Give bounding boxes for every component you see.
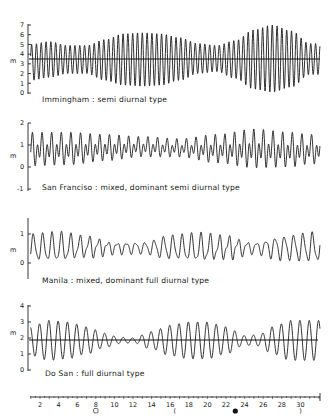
x-tick-label: 20 — [203, 401, 211, 409]
panel-do-san: 01234 m Do San : full diurnal type — [10, 302, 320, 378]
x-tick-label: 12 — [129, 401, 137, 409]
x-tick-label: 28 — [278, 401, 286, 409]
tide-curve — [31, 129, 320, 168]
first-quarter-moon-icon — [94, 409, 98, 413]
tide-types-figure: 01234567 m Immingham : semi diurnal type… — [0, 0, 334, 418]
y-tick-label: 6 — [20, 31, 24, 39]
y-tick-label: 3 — [20, 318, 24, 326]
x-tick-label: 10 — [110, 401, 118, 409]
x-tick-label: 18 — [185, 401, 193, 409]
y-tick-label: 3 — [20, 60, 24, 68]
x-minor-ticks — [31, 396, 319, 399]
y-tick-label: 1 — [20, 350, 24, 358]
x-tick-labels: 24681012141618202224262830 — [38, 401, 305, 409]
x-tick-label: 4 — [57, 401, 61, 409]
x-tick-label: 2 — [38, 401, 42, 409]
y-ticks: 01234 — [20, 302, 31, 374]
moon-phase-symbols: () — [94, 407, 302, 415]
crescent-moon-icon: ( — [174, 407, 177, 415]
y-ticks: -1012 — [17, 119, 31, 193]
last-quarter-moon-icon: ) — [299, 407, 302, 415]
x-tick-label: 26 — [259, 401, 267, 409]
tide-curve — [31, 231, 320, 261]
y-tick-label: 1 — [20, 141, 24, 149]
x-tick-label: 6 — [75, 401, 79, 409]
panel-label: Do San : full diurnal type — [45, 369, 145, 378]
y-tick-label: 4 — [20, 50, 24, 58]
y-tick-label: 2 — [20, 334, 24, 342]
y-unit-label: m — [10, 152, 16, 160]
y-tick-label: 0 — [20, 259, 24, 267]
y-tick-label: 1 — [20, 230, 24, 238]
panel-label: Immingham : semi diurnal type — [42, 95, 167, 104]
y-unit-label: m — [10, 246, 16, 254]
y-ticks: 01 — [20, 230, 31, 267]
y-tick-label: 2 — [20, 119, 24, 127]
y-tick-label: 2 — [20, 70, 24, 78]
y-tick-label: 4 — [20, 302, 24, 310]
panel-label: San Franciso : mixed, dominant semi diur… — [42, 183, 240, 192]
x-tick-label: 8 — [94, 401, 98, 409]
y-unit-label: m — [10, 329, 16, 337]
x-tick-label: 24 — [240, 401, 248, 409]
panel-label: Manila : mixed, dominant full diurnal ty… — [42, 276, 209, 285]
x-tick-label: 22 — [222, 401, 230, 409]
panel-san-francisco: -1012 m San Franciso : mixed, dominant s… — [10, 119, 320, 193]
y-tick-label: 0 — [20, 89, 24, 97]
y-tick-label: 5 — [20, 41, 24, 49]
x-tick-label: 14 — [147, 401, 155, 409]
new-moon-icon — [233, 408, 238, 413]
panel-immingham: 01234567 m Immingham : semi diurnal type — [10, 21, 320, 104]
y-unit-label: m — [10, 57, 16, 65]
panel-manila: 01 m Manila : mixed, dominant full diurn… — [10, 218, 320, 285]
x-axis-days: 24681012141618202224262830 () — [30, 393, 320, 415]
y-tick-label: 1 — [20, 80, 24, 88]
y-tick-label: 0 — [20, 366, 24, 374]
y-tick-label: -1 — [17, 185, 23, 193]
y-tick-label: 7 — [20, 21, 24, 29]
y-tick-label: 0 — [20, 163, 24, 171]
